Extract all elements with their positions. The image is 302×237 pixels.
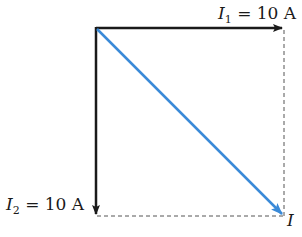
label-i2-value: = 10 A <box>25 194 84 214</box>
vector-i-resultant-arrow <box>97 29 282 214</box>
label-i1: I1 = 10 A <box>218 5 296 25</box>
label-i2-symbol: I <box>6 194 13 214</box>
label-i2: I2 = 10 A <box>6 196 84 216</box>
label-i1-value: = 10 A <box>237 3 296 23</box>
label-i1-symbol: I <box>218 3 225 23</box>
label-i1-subscript: 1 <box>225 13 232 26</box>
label-i-resultant: I <box>287 212 294 229</box>
label-i2-subscript: 2 <box>13 204 20 217</box>
phasor-diagram: I1 = 10 A I2 = 10 A I <box>0 0 302 237</box>
label-i-symbol: I <box>287 210 294 230</box>
